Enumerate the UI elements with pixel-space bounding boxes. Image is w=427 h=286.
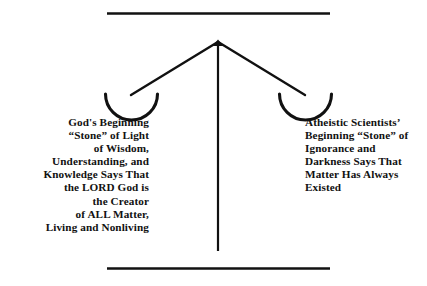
left-balance-arm — [131, 43, 217, 96]
right-balance-arm — [219, 43, 305, 96]
balance-apex-pivot — [213, 40, 224, 47]
right-pan-caption: Atheistic Scientists’ Beginning “Stone” … — [305, 116, 425, 195]
balance-diagram: God's Beginning “Stone” of Light of Wisd… — [0, 0, 427, 286]
left-pan-caption: God's Beginning “Stone” of Light of Wisd… — [18, 116, 149, 234]
